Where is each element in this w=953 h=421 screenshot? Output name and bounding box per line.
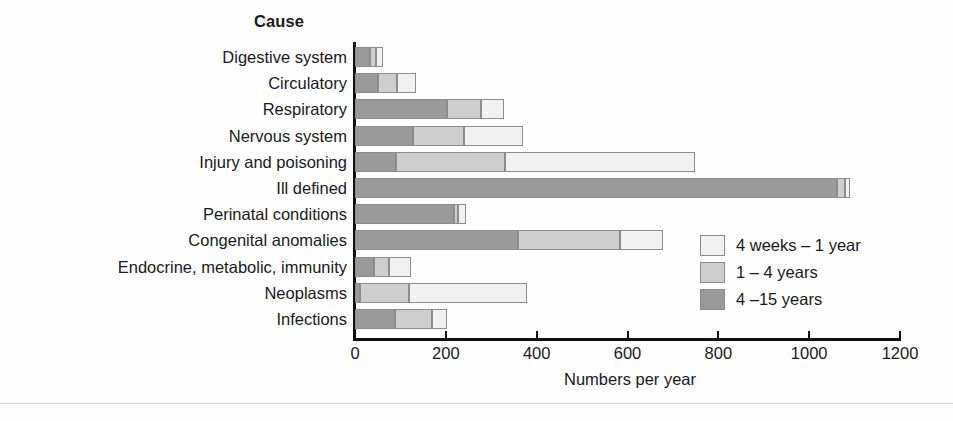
- legend-item: 4 weeks – 1 year: [700, 232, 940, 259]
- bar-segment: [378, 73, 397, 93]
- x-axis-tick: [627, 331, 629, 339]
- bar-segment: [355, 257, 374, 277]
- legend-swatch: [700, 289, 725, 310]
- bar-segment: [409, 283, 527, 303]
- x-axis-label: Numbers per year: [420, 370, 840, 389]
- category-label: Digestive system: [15, 44, 355, 70]
- bar-row: Injury and poisoning: [0, 149, 953, 175]
- bar-segment: [432, 309, 447, 329]
- bar-row: Perinatal conditions: [0, 201, 953, 227]
- bar-segment: [837, 178, 845, 198]
- category-label: Neoplasms: [15, 280, 355, 306]
- x-axis-tick-label: 1000: [774, 344, 844, 363]
- x-axis-tick: [717, 331, 719, 339]
- bar-segment: [458, 204, 466, 224]
- x-axis-tick-label: 1200: [865, 344, 935, 363]
- bar-segment: [395, 309, 432, 329]
- bar-segment: [355, 204, 454, 224]
- x-axis-tick: [354, 331, 356, 339]
- bar-segment: [374, 257, 389, 277]
- bar-row: Nervous system: [0, 123, 953, 149]
- bar-segment: [464, 126, 523, 146]
- category-label: Ill defined: [15, 175, 355, 201]
- bar-segment: [620, 230, 663, 250]
- category-label: Nervous system: [15, 123, 355, 149]
- bar-segment: [413, 126, 464, 146]
- category-label: Infections: [15, 306, 355, 332]
- x-axis-tick: [445, 331, 447, 339]
- category-label: Respiratory: [15, 96, 355, 122]
- legend-swatch: [700, 262, 725, 283]
- bar-segment: [355, 152, 396, 172]
- bar-segment: [360, 283, 409, 303]
- category-label: Injury and poisoning: [15, 149, 355, 175]
- bar-segment: [355, 99, 447, 119]
- bar-segment: [355, 126, 413, 146]
- x-axis-tick: [808, 331, 810, 339]
- bar-segment: [355, 47, 370, 67]
- bar-segment: [397, 73, 416, 93]
- category-axis-header: Cause: [214, 12, 344, 31]
- category-label: Endocrine, metabolic, immunity: [15, 254, 355, 280]
- category-label: Congenital anomalies: [15, 227, 355, 253]
- bar-row: Digestive system: [0, 44, 953, 70]
- x-axis-tick: [899, 331, 901, 339]
- bar-segment: [355, 73, 378, 93]
- bar-row: Circulatory: [0, 70, 953, 96]
- bar-segment: [355, 309, 395, 329]
- page-divider: [0, 403, 953, 404]
- x-axis-tick-label: 800: [683, 344, 753, 363]
- x-axis-tick: [536, 331, 538, 339]
- x-axis-tick-label: 600: [593, 344, 663, 363]
- x-axis-tick-label: 400: [502, 344, 572, 363]
- stacked-bar-chart: Cause 020040060080010001200 Digestive sy…: [0, 0, 953, 421]
- chart-legend: 4 weeks – 1 year1 – 4 years4 –15 years: [700, 232, 940, 313]
- category-label: Circulatory: [15, 70, 355, 96]
- bar-segment: [447, 99, 481, 119]
- bar-segment: [376, 47, 383, 67]
- bar-segment: [355, 230, 518, 250]
- bar-row: Respiratory: [0, 96, 953, 122]
- legend-label: 4 –15 years: [736, 290, 822, 309]
- category-label: Perinatal conditions: [15, 201, 355, 227]
- bar-segment: [481, 99, 504, 119]
- bar-segment: [389, 257, 411, 277]
- bar-segment: [518, 230, 620, 250]
- x-axis-tick-label: 200: [411, 344, 481, 363]
- legend-label: 4 weeks – 1 year: [736, 236, 861, 255]
- bar-segment: [505, 152, 695, 172]
- bar-segment: [355, 178, 837, 198]
- bar-row: Ill defined: [0, 175, 953, 201]
- bar-segment: [845, 178, 850, 198]
- legend-swatch: [700, 235, 725, 256]
- legend-item: 1 – 4 years: [700, 259, 940, 286]
- x-axis-tick-label: 0: [320, 344, 390, 363]
- legend-label: 1 – 4 years: [736, 263, 818, 282]
- legend-item: 4 –15 years: [700, 286, 940, 313]
- bar-segment: [396, 152, 505, 172]
- figure-canvas: Cause 020040060080010001200 Digestive sy…: [0, 0, 953, 421]
